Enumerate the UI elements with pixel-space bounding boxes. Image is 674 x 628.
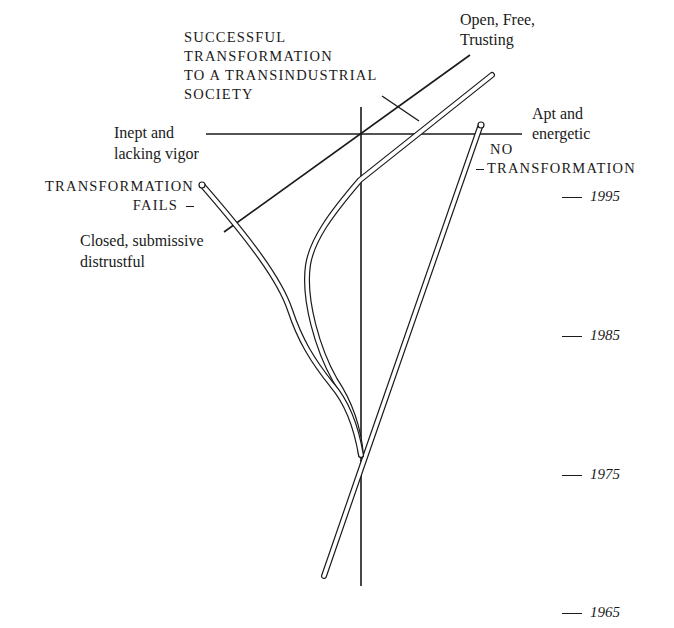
tick-mark: [562, 336, 582, 337]
no-line-2-wrap: TRANSFORMATION: [476, 159, 636, 178]
no-transformation-leader-dash: [476, 169, 484, 170]
year-tick-1995: 1995: [562, 187, 620, 206]
diagonal-axis-tick: [382, 96, 419, 121]
year-label: 1985: [590, 327, 620, 343]
successful-line-1: SUCCESSFUL: [184, 28, 377, 47]
inept-line-2: lacking vigor: [114, 143, 199, 164]
trajectory-paths: [199, 75, 492, 576]
successful-transformation-path: [307, 75, 492, 455]
closed-line-1: Closed, submissive: [80, 230, 204, 251]
year-label: 1975: [590, 466, 620, 482]
successful-line-2: TRANSFORMATION: [184, 47, 377, 66]
inept-label: Inept and lacking vigor: [114, 122, 199, 164]
apt-energetic-label: Apt and energetic: [532, 104, 590, 144]
open-free-line-1: Open, Free,: [460, 10, 535, 30]
tick-mark: [562, 613, 582, 614]
open-free-trusting-label: Open, Free, Trusting: [460, 10, 535, 50]
fails-line-2: FAILS: [133, 197, 178, 213]
inept-line-1: Inept and: [114, 122, 199, 143]
successful-transformation-label: SUCCESSFUL TRANSFORMATION TO A TRANSINDU…: [184, 28, 377, 104]
year-tick-1975: 1975: [562, 465, 620, 484]
no-line-1: NO: [476, 140, 636, 159]
tick-mark: [562, 197, 582, 198]
year-tick-1965: 1965: [562, 603, 620, 622]
fails-leader-dash: [186, 206, 194, 207]
fails-line-1: TRANSFORMATION: [14, 177, 194, 196]
closed-line-2: distrustful: [80, 251, 204, 272]
fails-line-2-wrap: FAILS: [14, 196, 194, 215]
year-label: 1965: [590, 604, 620, 620]
apt-line-1: Apt and: [532, 104, 590, 124]
no-line-2: TRANSFORMATION: [487, 160, 636, 176]
year-tick-1985: 1985: [562, 326, 620, 345]
tick-mark: [562, 475, 582, 476]
successful-line-4: SOCIETY: [184, 85, 377, 104]
transformation-fails-label: TRANSFORMATION FAILS: [14, 177, 194, 215]
successful-line-3: TO A TRANSINDUSTRIAL: [184, 66, 377, 85]
no-transformation-label: NO TRANSFORMATION: [476, 140, 636, 178]
closed-submissive-label: Closed, submissive distrustful: [80, 230, 204, 272]
open-free-line-2: Trusting: [460, 30, 535, 50]
year-label: 1995: [590, 188, 620, 204]
transformation-fails-path: [199, 182, 361, 455]
